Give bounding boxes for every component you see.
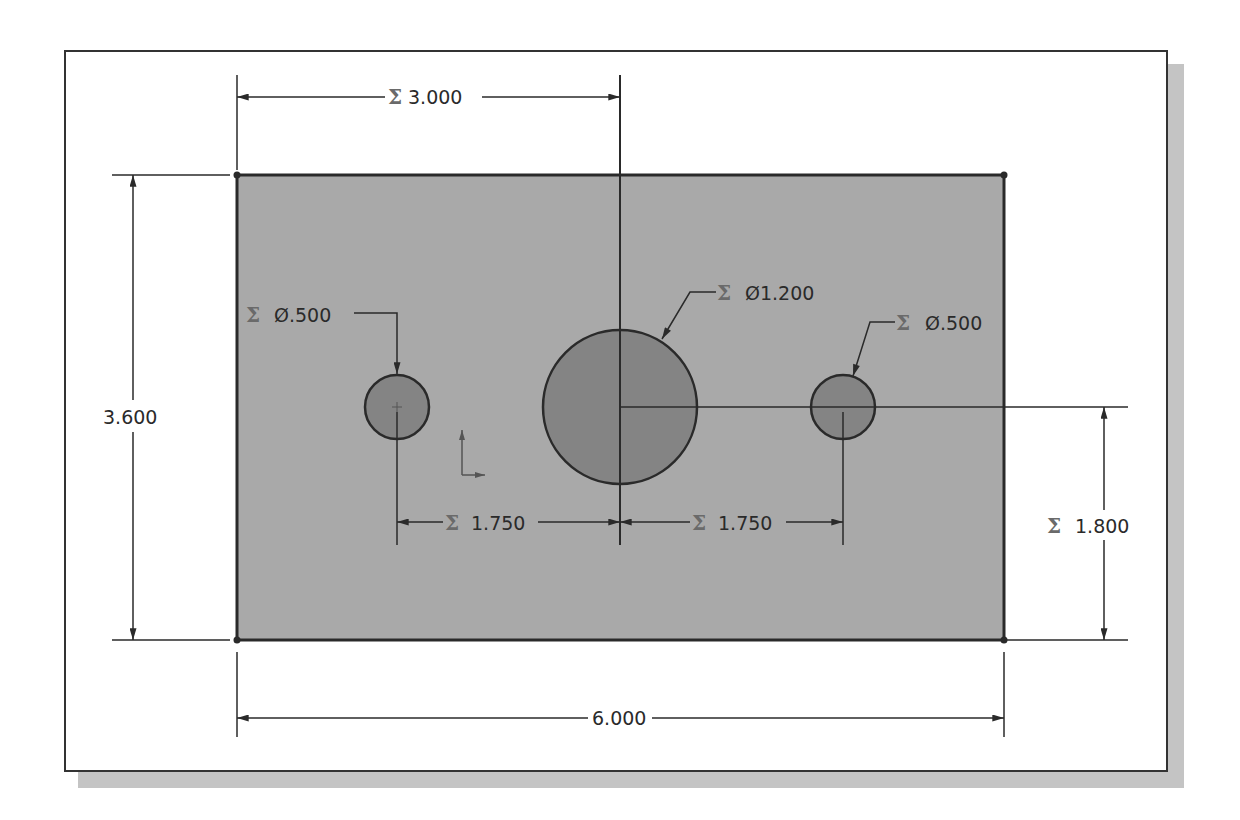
dim-value: 1.800 [1075,515,1129,537]
sigma-symbol: Σ [692,511,706,535]
dim-value: 3.000 [408,86,462,108]
dim-6000[interactable]: 6.000 [237,652,1004,737]
sigma-symbol: Σ [246,303,260,327]
dim-value: 6.000 [592,707,646,729]
dim-value: 1.750 [718,512,772,534]
dim-3600[interactable]: 3.600 [103,175,230,640]
dim-value: Ø1.200 [745,282,814,304]
dim-3000[interactable]: Σ 3.000 [237,75,620,170]
sigma-symbol: Σ [445,511,459,535]
dim-value: 1.750 [471,512,525,534]
sigma-symbol: Σ [896,311,910,335]
dim-value: Ø.500 [274,304,331,326]
dim-value: Ø.500 [925,312,982,334]
sigma-symbol: Σ [388,85,402,109]
dim-value: 3.600 [103,406,157,428]
sigma-symbol: Σ [1047,514,1061,538]
sketch-canvas: Σ 3.000 3.600 Σ Ø.500 Σ Ø1.200 Σ Ø.500 Σ… [0,0,1240,820]
dim-center-height[interactable]: Σ 1.800 [1004,407,1129,640]
sigma-symbol: Σ [717,281,731,305]
